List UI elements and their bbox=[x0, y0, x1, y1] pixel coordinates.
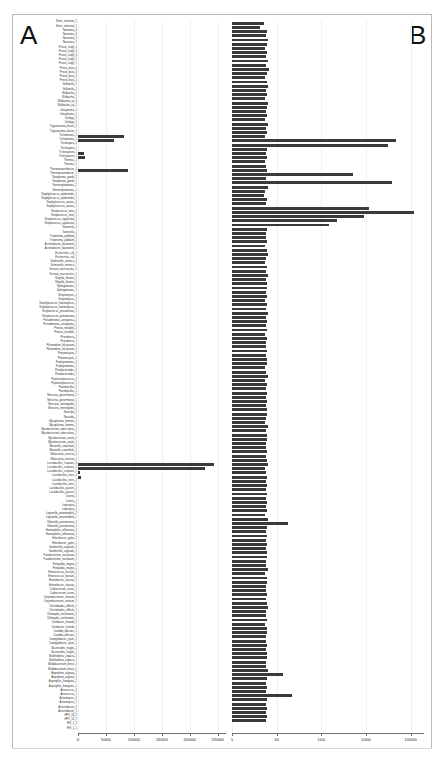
panel-b-bar bbox=[232, 30, 267, 33]
panel-b-bar bbox=[232, 354, 266, 357]
panel-b-bar bbox=[232, 345, 266, 348]
panel-b-bar bbox=[232, 198, 267, 201]
panel-b-bar bbox=[232, 640, 266, 643]
panel-b-bar bbox=[232, 186, 268, 189]
panel-b-bar bbox=[232, 707, 267, 710]
panel-b-bar bbox=[232, 400, 267, 403]
panel-b-bar bbox=[232, 156, 267, 159]
panel-a-bar bbox=[78, 467, 205, 470]
panel-b-bar bbox=[232, 656, 267, 659]
panel-b-bar bbox=[232, 106, 267, 109]
panel-b-bar bbox=[232, 160, 265, 163]
panel-a-bar bbox=[78, 135, 124, 138]
panel-b-bar bbox=[232, 425, 268, 428]
panel-b-axis bbox=[232, 733, 424, 734]
panel-b-bar bbox=[232, 211, 414, 214]
panel-b-bar bbox=[232, 514, 265, 517]
panel-b-bar bbox=[232, 484, 267, 487]
panel-b-bar bbox=[232, 312, 268, 315]
panel-b-bar bbox=[232, 581, 267, 584]
panel-b-bar bbox=[232, 190, 265, 193]
panel-b-bar bbox=[232, 577, 267, 580]
panel-b-bar bbox=[232, 358, 267, 361]
panel-b-bar bbox=[232, 245, 265, 248]
panel-b-bar bbox=[232, 413, 267, 416]
panel-b-bar bbox=[232, 375, 268, 378]
panel-b-bar bbox=[232, 68, 269, 71]
panel-b-bar bbox=[232, 144, 388, 147]
axis-tick-label: 20000 bbox=[184, 737, 196, 743]
panel-b-bar bbox=[232, 123, 268, 126]
panel-a-bar bbox=[78, 139, 114, 142]
panel-b-bar bbox=[232, 43, 267, 46]
panel-b-bar bbox=[232, 303, 267, 306]
axis-tick bbox=[134, 733, 135, 736]
axis-tick bbox=[277, 733, 278, 736]
panel-b-bar bbox=[232, 703, 266, 706]
panel-b-bar bbox=[232, 22, 264, 25]
panel-b-bar bbox=[232, 383, 267, 386]
panel-b-bar bbox=[232, 81, 267, 84]
panel-b-bar bbox=[232, 535, 267, 538]
axis-tick-label: 10000 bbox=[128, 737, 140, 743]
panel-b-bar bbox=[232, 93, 267, 96]
panel-b-bar bbox=[232, 564, 266, 567]
panel-b-bar bbox=[232, 89, 266, 92]
panel-b-bar bbox=[232, 257, 266, 260]
panel-b-bar bbox=[232, 165, 266, 168]
panel-b-bar bbox=[232, 682, 266, 685]
panel-b-bar bbox=[232, 152, 266, 155]
panel-b-bar bbox=[232, 249, 267, 252]
panel-b-bar bbox=[232, 148, 267, 151]
panel-b-bar bbox=[232, 455, 266, 458]
panel-a-bar bbox=[78, 169, 128, 172]
panel-b-bar bbox=[232, 669, 268, 672]
panel-b-bar bbox=[232, 598, 266, 601]
figure-bottom-rule bbox=[12, 748, 432, 749]
panel-b-bar bbox=[232, 619, 267, 622]
axis-tick-label: 0 bbox=[77, 737, 79, 743]
panel-b-bar bbox=[232, 690, 266, 693]
bar-rows: Enter_intestinal_2Enter_intestinal_1Nann… bbox=[0, 21, 447, 733]
panel-b-bar bbox=[232, 652, 267, 655]
panel-b-bar bbox=[232, 610, 266, 613]
panel-b-bar bbox=[232, 266, 267, 269]
axis-tick bbox=[106, 733, 107, 736]
panel-b-bar bbox=[232, 434, 267, 437]
panel-a-bar bbox=[78, 471, 80, 474]
panel-b-bar bbox=[232, 308, 266, 311]
axis-tick-label: 100 bbox=[318, 737, 325, 743]
panel-b-bar bbox=[232, 387, 266, 390]
panel-b-bar bbox=[232, 665, 266, 668]
panel-b-bar bbox=[232, 350, 267, 353]
panel-b-bar bbox=[232, 64, 266, 67]
panel-b-bar bbox=[232, 127, 266, 130]
panel-b-bar bbox=[232, 26, 260, 29]
panel-b-bar bbox=[232, 177, 266, 180]
panel-b-bar bbox=[232, 635, 266, 638]
panel-b-bar bbox=[232, 316, 266, 319]
axis-tick-label: 10 bbox=[274, 737, 279, 743]
panel-a-bar bbox=[78, 463, 214, 466]
axis-tick bbox=[321, 733, 322, 736]
panel-b-bar bbox=[232, 261, 265, 264]
panel-b-bar bbox=[232, 593, 267, 596]
panel-b-bar bbox=[232, 291, 266, 294]
panel-b-bar bbox=[232, 324, 266, 327]
panel-b-bar bbox=[232, 337, 267, 340]
panel-b-bar bbox=[232, 606, 268, 609]
panel-b-bar bbox=[232, 173, 353, 176]
panel-b-bar bbox=[232, 572, 265, 575]
panel-b-bar bbox=[232, 299, 265, 302]
panel-b-bar bbox=[232, 131, 267, 134]
panel-b-bar bbox=[232, 72, 267, 75]
panel-b-bar bbox=[232, 677, 267, 680]
panel-b-bar bbox=[232, 602, 267, 605]
panel-b-bar bbox=[232, 501, 267, 504]
panel-b-bar bbox=[232, 202, 266, 205]
panel-b-bar bbox=[232, 686, 267, 689]
panel-b-bar bbox=[232, 60, 268, 63]
panel-b-bar bbox=[232, 55, 266, 58]
axis-tick bbox=[232, 733, 233, 736]
panel-b-bar bbox=[232, 715, 267, 718]
